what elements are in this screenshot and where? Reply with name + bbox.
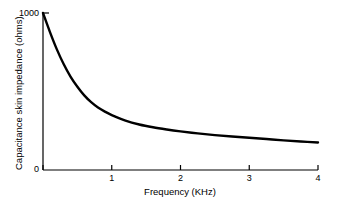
x-tick-label-2: 2 <box>178 173 183 183</box>
x-tick-label-4: 4 <box>315 173 320 183</box>
x-tick-label-3: 3 <box>247 173 252 183</box>
x-tick-label-1: 1 <box>109 173 114 183</box>
x-axis-title: Frequency (KHz) <box>144 186 216 197</box>
chart-figure: 1000 0 1234 Frequency (KHz) Capacitance … <box>0 0 337 204</box>
impedance-vs-frequency-chart: 1000 0 1234 Frequency (KHz) Capacitance … <box>0 0 337 204</box>
y-axis-title: Capacitance skin impedance (ohms) <box>13 16 24 170</box>
y-tick-label-0: 0 <box>34 164 39 174</box>
